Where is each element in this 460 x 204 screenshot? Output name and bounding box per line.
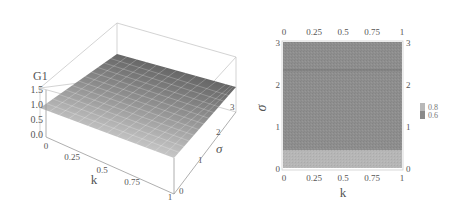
k-axis-label: k [340, 185, 347, 200]
z-axis-label: G1 [33, 69, 48, 83]
sigma-tick: 0 [179, 186, 184, 196]
z-tick: 1.0 [31, 99, 44, 110]
g1-surface [40, 54, 236, 158]
sigma-tick: 3 [230, 102, 235, 112]
right-tick: 3 [406, 38, 411, 48]
legend-swatch-0.6 [420, 111, 425, 119]
bottom-tick: 0.5 [337, 173, 349, 183]
contour-plot: 0 0.25 0.5 0.75 1 3 2 1 0 3 2 1 0 [254, 27, 438, 200]
figure: 1.5 1.0 0.5 0.0 G1 0 0.25 0.5 0.75 1 k 0… [0, 0, 460, 204]
region-level-0.6 [283, 42, 402, 150]
sigma-tick: 2 [216, 127, 221, 137]
z-tick: 0.5 [31, 114, 44, 125]
sigma-tick: 1 [198, 155, 203, 165]
surface-plot-3d: 1.5 1.0 0.5 0.0 G1 0 0.25 0.5 0.75 1 k 0… [31, 23, 237, 202]
sigma-axis-label: σ [254, 103, 269, 111]
legend: 0.8 0.6 [420, 103, 438, 120]
z-axis-ticks: 1.5 1.0 0.5 0.0 [31, 84, 44, 140]
top-tick: 0 [282, 27, 287, 37]
left-sigma-ticks: 3 2 1 0 [276, 38, 281, 174]
z-tick: 0.0 [31, 129, 44, 140]
region-level-0.8 [283, 150, 402, 168]
k-tick: 0 [44, 141, 49, 151]
top-k-ticks: 0 0.25 0.5 0.75 1 [282, 27, 405, 37]
bottom-k-ticks: 0 0.25 0.5 0.75 1 [282, 173, 405, 183]
left-tick: 0 [276, 164, 281, 174]
right-tick: 1 [406, 122, 411, 132]
top-tick: 0.5 [337, 27, 349, 37]
top-tick: 0.75 [364, 27, 380, 37]
right-tick: 2 [406, 80, 411, 90]
left-tick: 3 [276, 38, 281, 48]
k-axis-label-3d: k [91, 172, 98, 187]
legend-swatch-0.8 [420, 103, 425, 111]
bottom-tick: 0 [282, 173, 287, 183]
left-tick: 1 [276, 122, 281, 132]
left-tick: 2 [276, 80, 281, 90]
right-sigma-ticks: 3 2 1 0 [406, 38, 411, 174]
legend-label: 0.6 [428, 111, 438, 120]
k-tick: 1 [168, 192, 173, 202]
z-tick: 1.5 [31, 84, 44, 95]
bottom-tick: 0.75 [364, 173, 380, 183]
top-tick: 1 [400, 27, 405, 37]
top-tick: 0.25 [306, 27, 322, 37]
sigma-axis-label-3d: σ [216, 141, 223, 156]
right-tick: 0 [406, 164, 411, 174]
k-tick: 0.25 [64, 152, 80, 162]
k-tick: 0.5 [96, 165, 108, 175]
bottom-tick: 0.25 [306, 173, 322, 183]
k-tick: 0.75 [124, 177, 140, 187]
bottom-tick: 1 [400, 173, 405, 183]
